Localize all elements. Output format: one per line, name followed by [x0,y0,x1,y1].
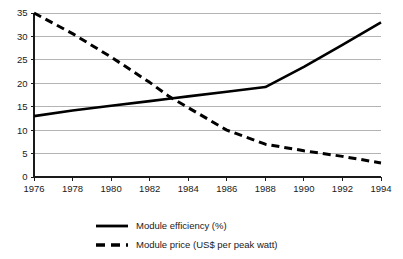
x-tick-label: 1986 [216,183,237,194]
x-tick-label: 1990 [293,183,314,194]
y-tick-label: 15 [17,101,28,112]
y-tick-label: 30 [17,31,28,42]
x-tick-label: 1980 [101,183,122,194]
legend-label: Module efficiency (%) [136,220,227,231]
y-tick-label: 20 [17,78,28,89]
y-tick-label: 0 [22,171,27,182]
x-tick-label: 1978 [62,183,83,194]
line-chart: 05101520253035 1976197819801982198419861… [0,0,403,259]
y-tick-label: 5 [22,148,27,159]
x-tick-label: 1982 [139,183,160,194]
x-tick-label: 1992 [332,183,353,194]
chart-svg: 05101520253035 1976197819801982198419861… [0,0,403,259]
legend-label: Module price (US$ per peak watt) [136,239,278,250]
y-tick-label: 10 [17,125,28,136]
y-tick-label: 35 [17,7,28,18]
x-tick-label: 1984 [178,183,199,194]
x-tick-label: 1994 [370,183,391,194]
y-tick-label: 25 [17,54,28,65]
x-tick-label: 1976 [23,183,44,194]
x-tick-label: 1988 [255,183,276,194]
